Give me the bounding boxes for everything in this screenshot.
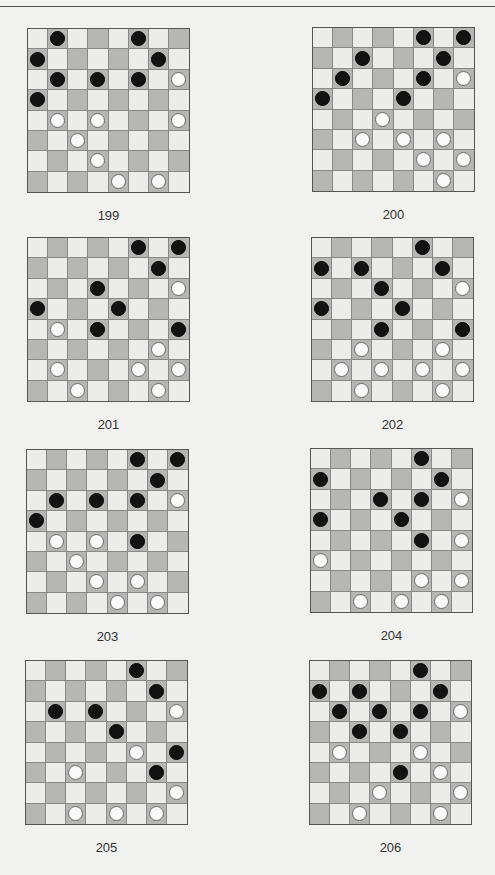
white-checker-piece	[129, 745, 144, 760]
board-square	[147, 804, 167, 824]
black-checker-piece	[30, 52, 45, 67]
black-checker-piece	[332, 704, 347, 719]
board-square	[148, 511, 168, 531]
board-square	[48, 131, 68, 151]
white-checker-piece	[90, 153, 105, 168]
board-square	[48, 111, 68, 131]
board-square	[167, 763, 187, 783]
board-square	[350, 783, 370, 803]
board-square	[452, 531, 472, 551]
white-checker-piece	[352, 806, 367, 821]
board-square	[108, 572, 128, 592]
board-square	[454, 171, 474, 191]
board-square	[311, 449, 331, 469]
board-square	[454, 48, 474, 68]
board-square	[330, 681, 350, 701]
board-square	[28, 172, 48, 192]
board-square	[433, 381, 453, 401]
board-square	[128, 552, 148, 572]
board-square	[88, 238, 108, 258]
puzzle-number: 200	[312, 207, 475, 222]
black-checker-piece	[315, 91, 330, 106]
white-checker-piece	[90, 113, 105, 128]
board-square	[87, 450, 107, 470]
white-checker-piece	[49, 534, 64, 549]
board-square	[86, 661, 106, 681]
board-square	[372, 258, 392, 278]
board-square	[88, 381, 108, 401]
board-square	[331, 469, 351, 489]
puzzle-number: 203	[26, 629, 189, 644]
white-checker-piece	[416, 152, 431, 167]
board-square	[453, 258, 473, 278]
board-square	[28, 258, 48, 278]
board-square	[129, 258, 149, 278]
board-square	[352, 320, 372, 340]
board-square	[109, 49, 129, 69]
board-square	[370, 763, 390, 783]
board-square	[66, 722, 86, 742]
board-square	[28, 340, 48, 360]
board-square	[87, 552, 107, 572]
board-square	[107, 804, 127, 824]
white-checker-piece	[372, 785, 387, 800]
board-square	[350, 804, 370, 824]
board-square	[413, 360, 433, 380]
board-square	[413, 381, 433, 401]
checkers-board	[26, 449, 189, 614]
board-square	[149, 131, 169, 151]
board-square	[453, 299, 473, 319]
black-checker-piece	[151, 261, 166, 276]
board-square	[109, 151, 129, 171]
board-square	[129, 49, 149, 69]
board-square	[370, 702, 390, 722]
board-square	[68, 320, 88, 340]
board-square	[411, 722, 431, 742]
white-checker-piece	[413, 745, 428, 760]
board-square	[413, 299, 433, 319]
board-square	[411, 743, 431, 763]
board-square	[168, 572, 188, 592]
black-checker-piece	[109, 724, 124, 739]
board-square	[434, 69, 454, 89]
checkers-board	[27, 237, 190, 402]
white-checker-piece	[433, 806, 448, 821]
board-square	[373, 69, 393, 89]
board-square	[310, 661, 330, 681]
white-checker-piece	[151, 174, 166, 189]
board-square	[129, 381, 149, 401]
board-square	[413, 340, 433, 360]
board-square	[88, 70, 108, 90]
board-square	[431, 804, 451, 824]
board-square	[129, 70, 149, 90]
board-square	[108, 532, 128, 552]
board-square	[109, 90, 129, 110]
white-checker-piece	[151, 342, 166, 357]
board-square	[432, 592, 452, 612]
board-square	[169, 360, 189, 380]
black-checker-piece	[50, 72, 65, 87]
board-square	[68, 29, 88, 49]
board-square	[68, 172, 88, 192]
board-square	[128, 572, 148, 592]
board-square	[167, 702, 187, 722]
board-square	[129, 320, 149, 340]
board-square	[129, 299, 149, 319]
board-square	[373, 89, 393, 109]
board-square	[48, 279, 68, 299]
board-square	[411, 804, 431, 824]
board-square	[452, 551, 472, 571]
board-square	[313, 28, 333, 48]
board-square	[451, 681, 471, 701]
board-square	[169, 49, 189, 69]
board-square	[312, 279, 332, 299]
board-square	[88, 258, 108, 278]
board-square	[373, 171, 393, 191]
board-square	[413, 238, 433, 258]
board-square	[149, 279, 169, 299]
board-square	[129, 90, 149, 110]
board-square	[28, 131, 48, 151]
board-square	[127, 783, 147, 803]
black-checker-piece	[355, 51, 370, 66]
board-square	[433, 320, 453, 340]
